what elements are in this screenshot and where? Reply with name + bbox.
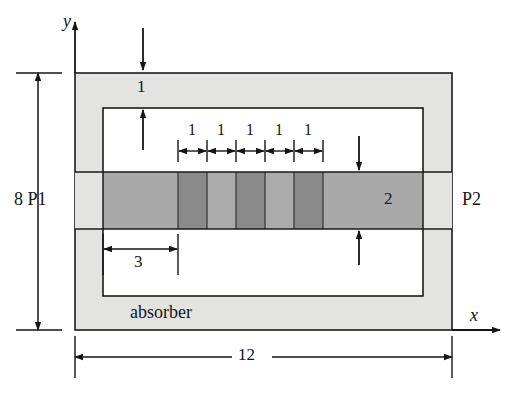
offset-label: 3: [134, 253, 143, 270]
x-axis-label: x: [470, 306, 478, 324]
stripe-3: [236, 172, 265, 229]
figure-canvas: y x 1 8 P1 P2 2 3 absorber 12 1 1 1 1 1: [0, 0, 514, 399]
frame-thickness-label: 1: [137, 78, 146, 95]
total-width-label: 12: [238, 346, 255, 363]
stripe-width-label-4: 1: [275, 122, 283, 138]
stripe-width-label-2: 1: [217, 122, 225, 138]
width-dimension-12: [75, 336, 452, 378]
stripe-width-label-5: 1: [304, 122, 312, 138]
y-axis-label: y: [63, 12, 71, 30]
absorber-label: absorber: [130, 303, 192, 321]
stripe-1: [178, 172, 207, 229]
band-height-label: 2: [384, 190, 393, 207]
stripe-5: [294, 172, 323, 229]
port-1-label: 8 P1: [14, 190, 47, 208]
absorber-cross-section-diagram: [0, 0, 514, 399]
stripe-4: [265, 172, 294, 229]
stripe-width-label-3: 1: [246, 122, 254, 138]
stripe-width-label-1: 1: [188, 122, 196, 138]
port-2-label: P2: [462, 190, 481, 208]
stripe-2: [207, 172, 236, 229]
